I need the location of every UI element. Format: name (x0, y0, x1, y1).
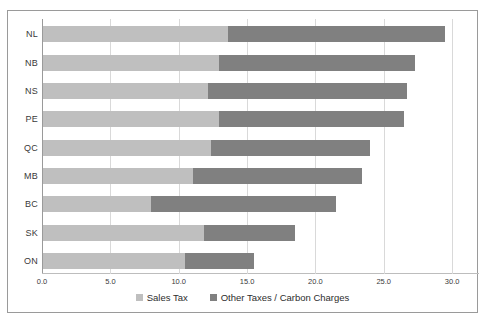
bar-segment-other-taxes (151, 196, 336, 212)
x-tick-label: 15.0 (240, 277, 255, 286)
category-label-qc: QC (8, 143, 38, 153)
x-tick-label: 25.0 (376, 277, 391, 286)
category-label-sk: SK (8, 228, 38, 238)
bar-row (43, 55, 415, 71)
x-tick-label: 0.0 (37, 277, 47, 286)
x-tick-label: 20.0 (308, 277, 323, 286)
bar-segment-other-taxes (219, 55, 414, 71)
legend-label: Sales Tax (147, 292, 188, 303)
x-axis-line (42, 273, 479, 274)
category-label-nl: NL (8, 29, 38, 39)
bar-segment-sales-tax (43, 26, 228, 42)
category-label-nb: NB (8, 58, 38, 68)
bar-row (43, 83, 407, 99)
x-axis-tick-labels: 0.05.010.015.020.025.030.0 (42, 277, 485, 291)
gridline (452, 19, 453, 274)
category-label-on: ON (8, 256, 38, 266)
bar-segment-sales-tax (43, 111, 219, 127)
bar-segment-sales-tax (43, 225, 204, 241)
chart-legend: Sales TaxOther Taxes / Carbon Charges (8, 292, 477, 303)
category-label-mb: MB (8, 171, 38, 181)
bar-segment-other-taxes (208, 83, 406, 99)
chart-container: NLNBNSPEQCMBBCSKON 0.05.010.015.020.025.… (7, 10, 478, 313)
x-tick-label: 10.0 (171, 277, 186, 286)
bar-row (43, 253, 254, 269)
x-tick-label: 5.0 (105, 277, 115, 286)
bar-segment-other-taxes (193, 168, 361, 184)
bar-segment-other-taxes (204, 225, 294, 241)
bar-segment-other-taxes (219, 111, 404, 127)
bar-row (43, 168, 362, 184)
legend-item-sales-tax[interactable]: Sales Tax (136, 292, 188, 303)
bar-row (43, 140, 370, 156)
bar-segment-other-taxes (228, 26, 445, 42)
legend-label: Other Taxes / Carbon Charges (221, 292, 350, 303)
bar-segment-sales-tax (43, 55, 219, 71)
legend-swatch-icon (210, 294, 217, 301)
bar-segment-sales-tax (43, 196, 151, 212)
bar-segment-sales-tax (43, 83, 208, 99)
plot-area (42, 19, 479, 274)
bar-segment-sales-tax (43, 253, 185, 269)
bar-segment-other-taxes (185, 253, 253, 269)
bar-segment-sales-tax (43, 140, 211, 156)
legend-item-other-taxes[interactable]: Other Taxes / Carbon Charges (210, 292, 350, 303)
category-label-bc: BC (8, 199, 38, 209)
bar-segment-other-taxes (211, 140, 370, 156)
x-tick-label: 30.0 (445, 277, 460, 286)
bar-row (43, 196, 336, 212)
category-axis: NLNBNSPEQCMBBCSKON (8, 19, 38, 274)
bar-segment-sales-tax (43, 168, 193, 184)
bar-row (43, 225, 295, 241)
bar-row (43, 111, 404, 127)
category-label-ns: NS (8, 86, 38, 96)
category-label-pe: PE (8, 114, 38, 124)
bar-row (43, 26, 445, 42)
legend-swatch-icon (136, 294, 143, 301)
